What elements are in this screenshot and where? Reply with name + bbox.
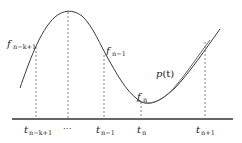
point-label-f-n-k-1: f n−k+1 <box>6 38 36 51</box>
tick-label-ellipsis: ··· <box>63 124 72 134</box>
dashed-verticals <box>36 12 205 119</box>
svg-text:n: n <box>143 96 147 104</box>
tick-label-t-n-k-1: t n−k+1 <box>24 124 52 137</box>
svg-text:f: f <box>105 45 112 56</box>
svg-text:f: f <box>6 38 13 49</box>
svg-text:n−1: n−1 <box>112 50 126 58</box>
polynomial-label: p(t) <box>156 68 174 79</box>
interpolation-diagram: f n−k+1 f n−1 f n p(t) t n−k+1 ··· t n−1… <box>0 0 242 143</box>
svg-text:f: f <box>136 91 143 102</box>
tick-label-t-n-1: t n−1 <box>96 124 115 137</box>
svg-text:n: n <box>142 129 146 137</box>
tick-label-t-n: t n <box>137 124 146 137</box>
svg-text:n−k+1: n−k+1 <box>13 43 36 51</box>
svg-text:n−k+1: n−k+1 <box>29 129 52 137</box>
tick-label-t-n-plus-1: t n+1 <box>196 124 215 137</box>
point-label-f-n-1: f n−1 <box>105 45 126 58</box>
svg-text:n−1: n−1 <box>101 129 115 137</box>
svg-text:n+1: n+1 <box>201 129 215 137</box>
